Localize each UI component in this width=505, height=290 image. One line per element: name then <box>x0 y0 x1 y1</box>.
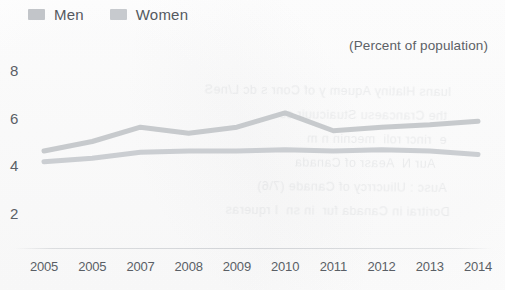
series-line-women <box>44 150 478 162</box>
series-line-men <box>44 113 478 151</box>
chart-plot-area <box>0 0 505 290</box>
series-group <box>44 113 478 162</box>
chart-container: luans Hlatiny Aquem y of Conr s dc L/neS… <box>0 0 505 290</box>
